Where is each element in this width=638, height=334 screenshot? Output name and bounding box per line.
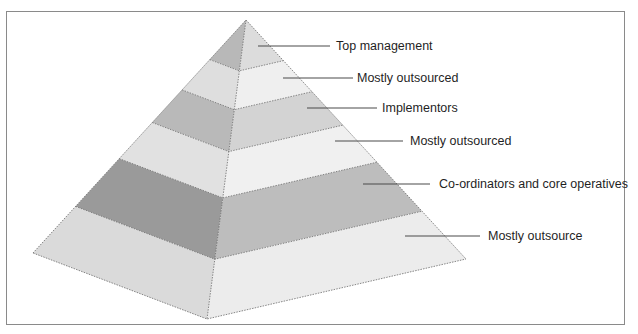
level-label-top-management: Top management [258,39,433,53]
level-label: Mostly outsourced [357,71,458,85]
level-label: Co-ordinators and core operatives [439,177,628,191]
level-label: Mostly outsourced [410,134,511,148]
pyramid-faces [33,20,466,319]
pyramid-diagram: Top management Mostly outsourced Impleme… [0,0,638,334]
level-label: Mostly outsource [488,229,583,243]
level-label-coordinators: Co-ordinators and core operatives [363,177,628,191]
level-label: Top management [336,39,433,53]
level-label-mostly-outsourced-1: Mostly outsourced [283,71,458,85]
level-label: Implementors [382,101,458,115]
